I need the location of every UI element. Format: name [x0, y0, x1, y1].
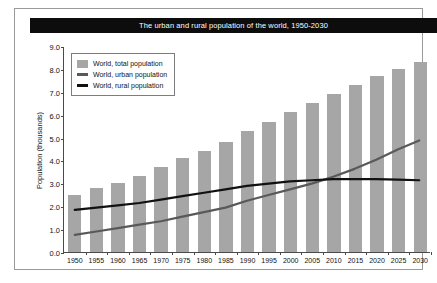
- x-tick-label: 2005: [304, 257, 320, 264]
- x-tick-mark: [129, 252, 130, 255]
- y-axis-title: Population (thousands): [35, 86, 44, 216]
- x-tick-mark: [258, 252, 259, 255]
- x-tick-mark: [215, 252, 216, 255]
- x-tick-label: 1985: [218, 257, 234, 264]
- x-tick-label: 1970: [153, 257, 169, 264]
- x-tick-mark: [345, 252, 346, 255]
- x-tick-label: 2030: [412, 257, 428, 264]
- legend-item: World, urban population: [77, 69, 167, 80]
- x-tick-label: 1955: [89, 257, 105, 264]
- x-tick-mark: [194, 252, 195, 255]
- x-tick-mark: [280, 252, 281, 255]
- y-tick-mark: [61, 70, 64, 71]
- x-tick-mark: [172, 252, 173, 255]
- x-tick-mark: [86, 252, 87, 255]
- x-tick-label: 1975: [175, 257, 191, 264]
- chart-legend: World, total populationWorld, urban popu…: [71, 53, 175, 96]
- y-tick-mark: [61, 161, 64, 162]
- y-tick-label: 0.0: [34, 249, 60, 258]
- x-tick-mark: [388, 252, 389, 255]
- y-tick-label: 4.0: [34, 157, 60, 166]
- x-tick-mark: [237, 252, 238, 255]
- x-tick-label: 1960: [110, 257, 126, 264]
- x-tick-mark: [431, 252, 432, 255]
- y-tick-mark: [61, 253, 64, 254]
- x-tick-label: 1965: [132, 257, 148, 264]
- y-tick-mark: [61, 207, 64, 208]
- y-tick-label: 1.0: [34, 226, 60, 235]
- y-tick-mark: [61, 184, 64, 185]
- y-tick-label: 2.0: [34, 203, 60, 212]
- x-tick-mark: [323, 252, 324, 255]
- legend-label: World, total population: [93, 60, 163, 67]
- legend-bar-swatch: [77, 60, 88, 68]
- line-series: [75, 179, 419, 210]
- chart-page: The urban and rural population of the wo…: [0, 0, 437, 283]
- y-tick-mark: [61, 139, 64, 140]
- y-tick-mark: [61, 47, 64, 48]
- legend-label: World, urban population: [93, 71, 167, 78]
- x-tick-label: 2000: [283, 257, 299, 264]
- y-tick-mark: [61, 230, 64, 231]
- x-tick-mark: [301, 252, 302, 255]
- x-tick-label: 1950: [67, 257, 83, 264]
- x-tick-mark: [107, 252, 108, 255]
- x-tick-mark: [150, 252, 151, 255]
- y-tick-mark: [61, 93, 64, 94]
- legend-item: World, total population: [77, 58, 167, 69]
- chart-title: The urban and rural population of the wo…: [30, 18, 437, 33]
- legend-line-swatch: [77, 84, 88, 87]
- x-tick-mark: [366, 252, 367, 255]
- legend-item: World, rural population: [77, 80, 167, 91]
- y-tick-label: 6.0: [34, 111, 60, 120]
- y-tick-label: 9.0: [34, 43, 60, 52]
- legend-label: World, rural population: [93, 82, 163, 89]
- y-tick-label: 3.0: [34, 180, 60, 189]
- x-tick-label: 2015: [348, 257, 364, 264]
- y-tick-label: 8.0: [34, 65, 60, 74]
- x-tick-label: 2020: [369, 257, 385, 264]
- x-tick-label: 1995: [261, 257, 277, 264]
- x-tick-label: 2010: [326, 257, 342, 264]
- chart-frame: The urban and rural population of the wo…: [14, 8, 423, 270]
- y-tick-mark: [61, 116, 64, 117]
- y-tick-label: 7.0: [34, 88, 60, 97]
- y-tick-label: 5.0: [34, 134, 60, 143]
- line-series: [75, 140, 419, 235]
- x-tick-mark: [409, 252, 410, 255]
- legend-line-swatch: [77, 73, 88, 76]
- x-tick-label: 1980: [197, 257, 213, 264]
- x-tick-label: 1990: [240, 257, 256, 264]
- x-tick-label: 2025: [391, 257, 407, 264]
